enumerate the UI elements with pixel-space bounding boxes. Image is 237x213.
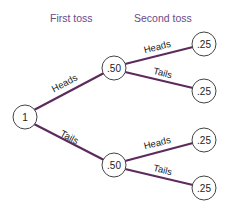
node-label: .25 xyxy=(197,86,211,97)
node-label: .25 xyxy=(197,135,211,146)
node-tt: .25 xyxy=(192,176,216,200)
node-label: .50 xyxy=(107,63,121,74)
node-ht: .25 xyxy=(192,79,216,103)
node-th: .25 xyxy=(192,128,216,152)
node-first-heads: .50 xyxy=(102,56,126,80)
node-first-tails: .50 xyxy=(102,153,126,177)
edge-label: Tails xyxy=(152,162,173,177)
probability-tree: Heads Tails Heads Tails Heads Tails 1 .5… xyxy=(0,0,237,213)
edge-label: Tails xyxy=(152,65,173,80)
edge-label: Heads xyxy=(50,71,80,94)
node-hh: .25 xyxy=(192,32,216,56)
root-node: 1 xyxy=(13,105,37,129)
node-label: .25 xyxy=(197,39,211,50)
node-label: .50 xyxy=(107,160,121,171)
node-label: 1 xyxy=(22,112,28,123)
node-label: .25 xyxy=(197,183,211,194)
